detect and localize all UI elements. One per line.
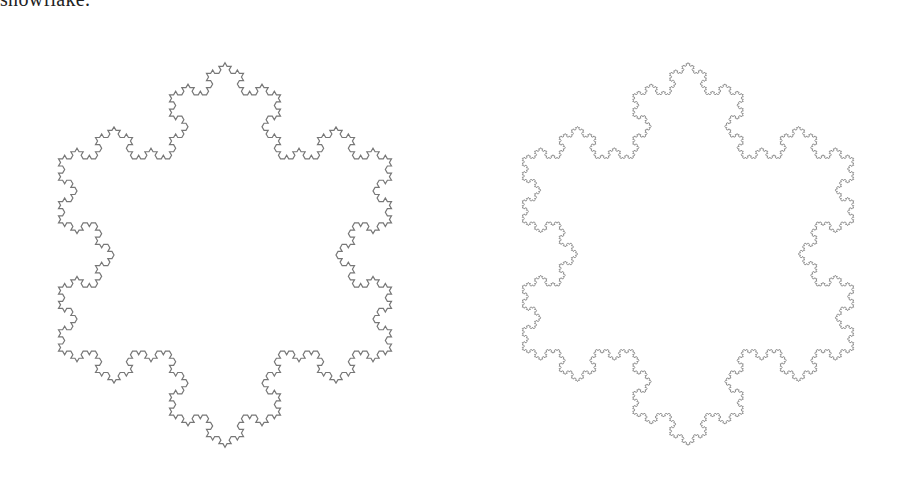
figure-canvas <box>0 0 913 493</box>
koch-snowflake-right <box>522 63 854 446</box>
koch-snowflake-left <box>59 63 392 448</box>
